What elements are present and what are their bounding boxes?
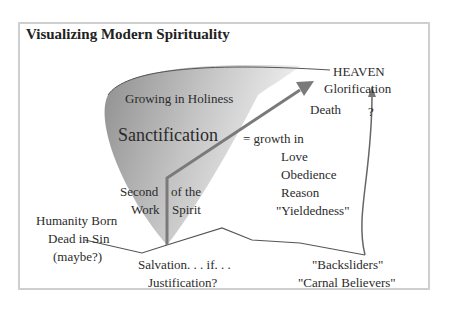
salvation-label: Salvation. . . if. . . (138, 256, 231, 273)
life-path (85, 228, 365, 255)
love-label: Love (281, 148, 308, 165)
question-label: ? (368, 103, 374, 120)
justification-label: Justification? (148, 274, 217, 291)
reason-label: Reason (281, 184, 319, 201)
humanity-label-2: Dead in Sin (48, 230, 109, 247)
sanctification-arrowhead (296, 81, 314, 96)
yieldedness-label: "Yieldedness" (276, 202, 349, 219)
carnal-label: "Carnal Believers" (298, 274, 396, 291)
death-label: Death (310, 101, 341, 118)
work-label: Work (131, 201, 160, 218)
of-the-label: of the (171, 183, 201, 200)
heaven-label: HEAVEN (333, 63, 385, 80)
spirit-label: Spirit (172, 201, 201, 218)
growth-in-label: = growth in (243, 130, 304, 147)
sanctification-label: Sanctification (118, 127, 218, 144)
diagram-title: Visualizing Modern Spirituality (26, 26, 230, 43)
glorification-label: Glorification (324, 80, 391, 97)
obedience-label: Obedience (281, 166, 337, 183)
backsliders-label: "Backsliders" (312, 256, 383, 273)
humanity-label-1: Humanity Born (36, 212, 117, 229)
second-label: Second (120, 183, 158, 200)
growing-label: Growing in Holiness (125, 90, 233, 107)
humanity-label-3: (maybe?) (53, 248, 102, 265)
